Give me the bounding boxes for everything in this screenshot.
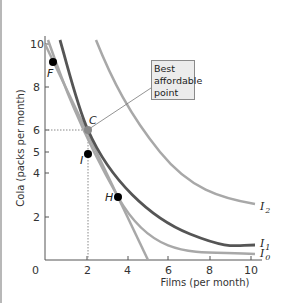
x-axis-title: Films (per month) <box>161 277 250 288</box>
best-affordable-point-callout: Best affordable point <box>151 60 195 100</box>
point-f-label: F <box>47 67 54 80</box>
y-tick-5: 5 <box>33 146 40 159</box>
point-h-label: H <box>105 191 113 204</box>
x-tick-10: 10 <box>244 264 258 277</box>
point-i-label: I <box>80 154 83 167</box>
y-tick-10: 10 <box>30 38 44 51</box>
x-tick-8: 8 <box>206 264 213 277</box>
y-tick-8: 8 <box>33 81 40 94</box>
point-i <box>84 150 92 158</box>
curve-label-i2: I2 <box>259 200 270 215</box>
y-tick-6: 6 <box>33 124 40 137</box>
y-tick-2: 2 <box>33 211 40 224</box>
point-c <box>84 126 92 134</box>
x-ticks <box>87 256 251 260</box>
x-tick-4: 4 <box>124 264 131 277</box>
origin-label: 0 <box>32 264 39 277</box>
chart: 10 8 6 5 4 2 0 2 4 6 8 10 Films (per mon… <box>0 0 288 303</box>
y-tick-4: 4 <box>33 167 40 180</box>
x-tick-6: 6 <box>165 264 172 277</box>
point-c-label: C <box>89 114 97 127</box>
x-tick-2: 2 <box>84 264 91 277</box>
point-f <box>49 58 57 66</box>
point-h <box>114 193 122 201</box>
y-axis-title: Cola (packs per month) <box>15 89 26 206</box>
